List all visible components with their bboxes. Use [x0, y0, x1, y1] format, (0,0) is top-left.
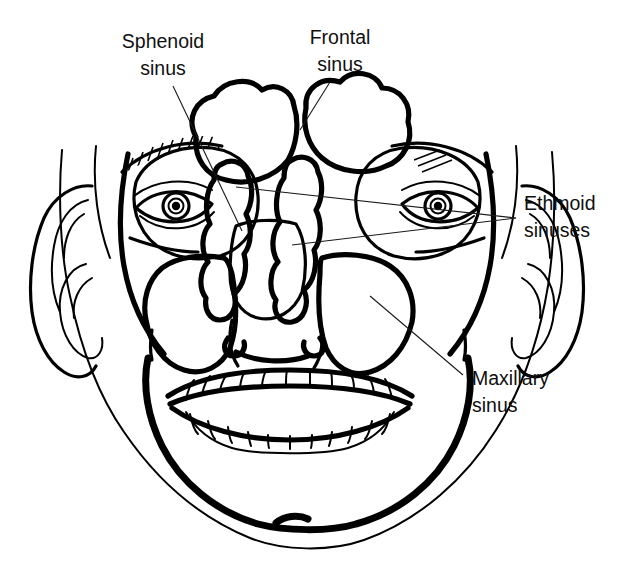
right-ear: [512, 186, 584, 377]
leader-ethmoid-2: [292, 218, 516, 245]
lower-teeth: [172, 408, 408, 453]
left-eye: [134, 181, 214, 228]
sphenoid-sinus: [230, 220, 305, 318]
label-frontal-line2: sinus: [317, 53, 363, 75]
label-sphenoid-sinus: Sphenoid sinus: [122, 30, 204, 79]
label-frontal-line1: Frontal: [310, 26, 371, 48]
left-eyebrow: [122, 135, 223, 172]
nose: [225, 320, 324, 368]
label-maxillary-line1: Maxillary: [472, 367, 549, 389]
label-ethmoid-line2: sinuses: [524, 219, 590, 241]
sinus-diagram-figure: Sphenoid sinus Frontal sinus Ethmoid sin…: [0, 0, 628, 567]
left-ear: [31, 186, 103, 377]
orbit-outlines: [134, 147, 480, 258]
label-maxillary-sinus: Maxillary sinus: [472, 367, 549, 416]
label-sphenoid-line1: Sphenoid: [122, 30, 204, 52]
upper-teeth: [168, 370, 412, 404]
label-maxillary-line2: sinus: [472, 394, 518, 416]
anatomical-illustration: Sphenoid sinus Frontal sinus Ethmoid sin…: [0, 0, 628, 567]
label-ethmoid-line1: Ethmoid: [524, 192, 596, 214]
label-sphenoid-line2: sinus: [140, 57, 186, 79]
right-eye: [400, 181, 480, 228]
label-frontal-sinus: Frontal sinus: [310, 26, 371, 75]
